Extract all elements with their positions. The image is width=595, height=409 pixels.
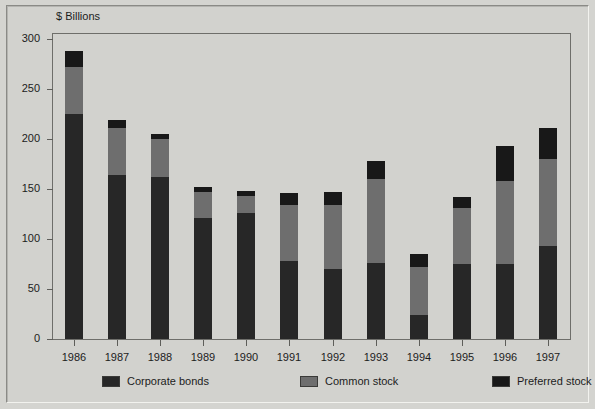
- bar-segment: [410, 254, 428, 267]
- x-tick-label: 1988: [140, 351, 180, 363]
- bar-segment: [151, 177, 169, 339]
- bar-group: [410, 33, 428, 339]
- y-tick-label: 50: [10, 282, 40, 294]
- x-tick-label: 1994: [399, 351, 439, 363]
- bar-segment: [65, 51, 83, 67]
- bar-segment: [410, 315, 428, 339]
- x-tick-mark: [376, 340, 377, 346]
- x-tick-mark: [74, 340, 75, 346]
- legend-label: Preferred stock: [517, 375, 592, 387]
- bar-group: [194, 33, 212, 339]
- y-tick-label: 300: [10, 32, 40, 44]
- bar-segment: [151, 139, 169, 177]
- bar-segment: [237, 196, 255, 213]
- y-tick-label: 250: [10, 82, 40, 94]
- bar-segment: [151, 134, 169, 139]
- legend-item: Common stock: [300, 374, 398, 388]
- y-tick-label: 150: [10, 182, 40, 194]
- bar-group: [280, 33, 298, 339]
- bar-segment: [496, 146, 514, 181]
- bar-segment: [65, 67, 83, 114]
- legend-swatch-icon: [492, 376, 510, 387]
- x-tick-mark: [548, 340, 549, 346]
- bar-segment: [194, 187, 212, 192]
- legend-label: Corporate bonds: [127, 375, 209, 387]
- legend-item: Preferred stock: [492, 374, 592, 388]
- x-tick-mark: [246, 340, 247, 346]
- x-tick-label: 1992: [313, 351, 353, 363]
- bar-segment: [108, 175, 126, 339]
- y-tick-label: 200: [10, 132, 40, 144]
- y-tick-mark: [47, 189, 53, 190]
- x-tick-mark: [160, 340, 161, 346]
- bar-segment: [324, 192, 342, 205]
- y-tick-mark: [47, 239, 53, 240]
- bar-segment: [453, 197, 471, 208]
- legend-swatch-icon: [300, 376, 318, 387]
- bar-segment: [539, 159, 557, 246]
- bar-group: [539, 33, 557, 339]
- bar-segment: [539, 246, 557, 339]
- x-tick-label: 1993: [356, 351, 396, 363]
- bar-segment: [108, 120, 126, 128]
- bar-segment: [280, 205, 298, 261]
- bar-segment: [108, 128, 126, 175]
- bar-segment: [453, 208, 471, 264]
- y-tick-mark: [47, 339, 53, 340]
- x-tick-label: 1991: [269, 351, 309, 363]
- bar-segment: [324, 205, 342, 269]
- bar-group: [324, 33, 342, 339]
- bar-segment: [237, 191, 255, 196]
- bar-group: [367, 33, 385, 339]
- bar-segment: [194, 192, 212, 218]
- x-tick-mark: [505, 340, 506, 346]
- x-tick-label: 1996: [485, 351, 525, 363]
- bar-segment: [539, 128, 557, 159]
- y-tick-label: 0: [10, 332, 40, 344]
- y-tick-mark: [47, 139, 53, 140]
- bar-group: [65, 33, 83, 339]
- bar-segment: [410, 267, 428, 315]
- bar-segment: [367, 161, 385, 179]
- bar-segment: [496, 264, 514, 339]
- bar-group: [453, 33, 471, 339]
- x-tick-mark: [462, 340, 463, 346]
- bar-segment: [237, 213, 255, 339]
- x-tick-mark: [117, 340, 118, 346]
- chart-legend: Corporate bondsCommon stockPreferred sto…: [52, 374, 571, 390]
- bar-segment: [194, 218, 212, 339]
- x-tick-label: 1989: [183, 351, 223, 363]
- y-tick-mark: [47, 39, 53, 40]
- plot-area: [52, 33, 571, 340]
- bar-segment: [367, 263, 385, 339]
- y-axis-title: $ Billions: [56, 10, 100, 22]
- bar-group: [151, 33, 169, 339]
- bar-segment: [367, 179, 385, 263]
- legend-label: Common stock: [325, 375, 398, 387]
- x-tick-mark: [333, 340, 334, 346]
- y-tick-mark: [47, 89, 53, 90]
- bar-group: [496, 33, 514, 339]
- y-tick-mark: [47, 289, 53, 290]
- x-tick-mark: [203, 340, 204, 346]
- x-tick-label: 1987: [97, 351, 137, 363]
- bar-segment: [280, 261, 298, 339]
- bar-segment: [496, 181, 514, 264]
- bar-group: [108, 33, 126, 339]
- bar-segment: [280, 193, 298, 205]
- x-tick-label: 1990: [226, 351, 266, 363]
- x-tick-mark: [419, 340, 420, 346]
- x-tick-label: 1995: [442, 351, 482, 363]
- bar-segment: [65, 114, 83, 339]
- bar-segment: [453, 264, 471, 339]
- legend-item: Corporate bonds: [102, 374, 209, 388]
- bar-segment: [324, 269, 342, 339]
- x-tick-label: 1986: [54, 351, 94, 363]
- x-tick-label: 1997: [528, 351, 568, 363]
- x-tick-mark: [289, 340, 290, 346]
- legend-swatch-icon: [102, 376, 120, 387]
- chart-screenshot: $ Billions 050100150200250300 1986198719…: [0, 0, 595, 409]
- bar-group: [237, 33, 255, 339]
- y-tick-label: 100: [10, 232, 40, 244]
